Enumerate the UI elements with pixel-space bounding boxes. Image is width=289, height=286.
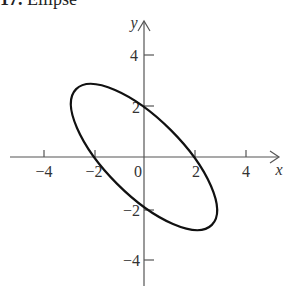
- x-tick-label: 4: [242, 163, 250, 180]
- x-tick-label: −4: [35, 163, 52, 180]
- ellipse-plot: −4 −2 0 2 4 x 4 2 −2 −4 y: [0, 0, 289, 286]
- y-tick-label: −2: [123, 202, 140, 219]
- y-tick-label: 4: [130, 47, 138, 64]
- x-axis-label: x: [274, 161, 282, 178]
- x-ticks: [44, 150, 246, 157]
- x-tick-label: 0: [134, 163, 142, 180]
- y-axis-label: y: [128, 14, 138, 32]
- y-tick-label: −4: [123, 252, 140, 269]
